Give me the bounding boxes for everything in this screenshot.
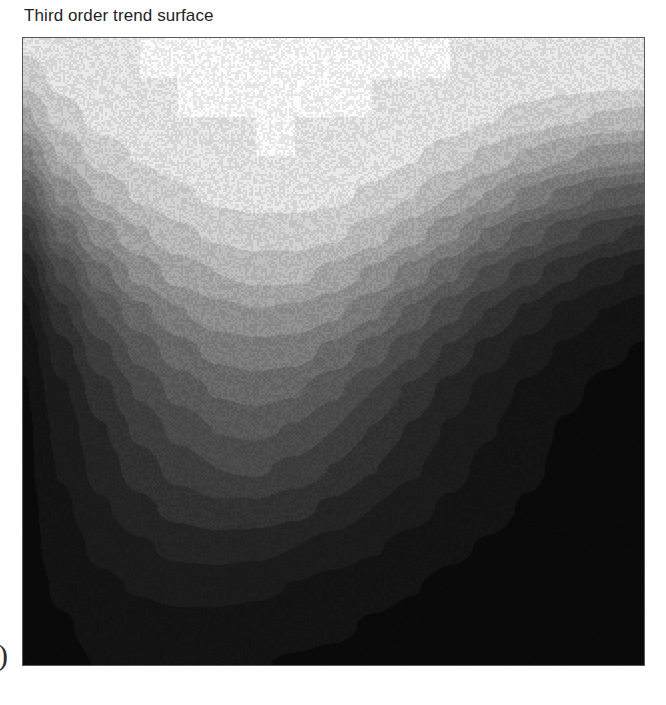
page-title: Third order trend surface [24,5,214,27]
plot-frame [22,37,645,666]
trend-surface-figure: Third order trend surface ) [0,0,666,705]
contour-surface-canvas [23,38,644,665]
page-artifact-glyph: ) [0,640,8,670]
